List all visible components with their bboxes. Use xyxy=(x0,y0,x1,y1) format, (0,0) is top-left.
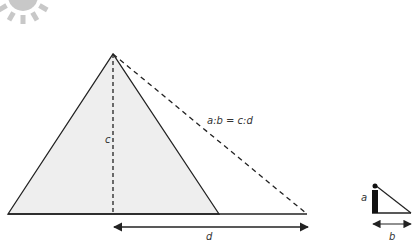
label-d: d xyxy=(206,231,213,242)
label-a: a xyxy=(361,192,367,203)
similar-triangles-diagram: c a:b = c:d d a b xyxy=(0,0,413,249)
person-figure xyxy=(372,184,411,214)
label-b: b xyxy=(389,231,395,242)
label-c: c xyxy=(105,134,111,145)
label-equation: a:b = c:d xyxy=(207,115,253,126)
person-icon xyxy=(373,184,378,189)
sun-icon xyxy=(0,0,51,24)
